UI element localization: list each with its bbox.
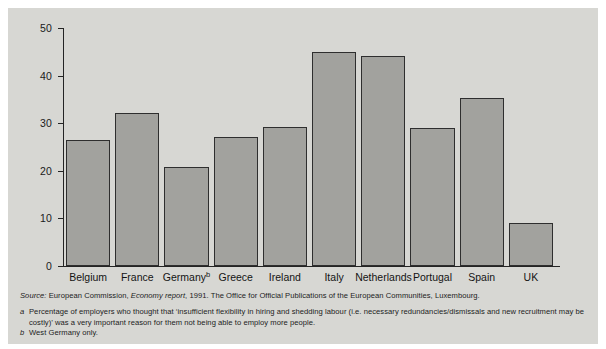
footnote-a: aPercentage of employers who thought tha… <box>20 307 592 328</box>
footnote-b-text: West Germany only. <box>29 328 585 338</box>
source-label: Source: <box>20 291 47 300</box>
bar-portugal <box>410 128 454 266</box>
bar-netherlands <box>361 56 405 266</box>
footnote-a-text: Percentage of employers who thought that… <box>29 307 585 328</box>
y-tick-label-30: 30 <box>26 117 52 129</box>
x-tick-label-germany: Germanyb <box>158 271 214 283</box>
y-tick-label-40: 40 <box>26 70 52 82</box>
bar-uk <box>509 223 553 266</box>
figure-notes: Source: European Commission, Economy rep… <box>20 291 592 339</box>
footnote-a-marker: a <box>20 307 29 317</box>
bar-italy <box>312 52 356 266</box>
x-tick-label-italy: Italy <box>306 271 362 283</box>
x-tick-label-france: France <box>109 271 165 283</box>
x-tick-label-portugal: Portugal <box>404 271 460 283</box>
x-tick-label-belgium: Belgium <box>60 271 116 283</box>
x-tick-label-uk: UK <box>503 271 559 283</box>
y-tick-label-10: 10 <box>26 212 52 224</box>
source-text-1: European Commission, <box>47 291 131 300</box>
bar-greece <box>214 137 258 266</box>
y-tick-mark-0 <box>58 266 64 267</box>
y-tick-label-50: 50 <box>26 22 52 34</box>
x-axis-line <box>63 266 560 267</box>
x-tick-label-spain: Spain <box>454 271 510 283</box>
source-note: Source: European Commission, Economy rep… <box>20 291 592 301</box>
bar-spain <box>460 98 504 266</box>
y-tick-mark-10 <box>58 218 64 219</box>
bar-belgium <box>66 140 110 266</box>
y-axis-line <box>63 28 64 267</box>
bar-france <box>115 113 159 266</box>
y-tick-mark-30 <box>58 123 64 124</box>
bar-chart: 50403020100 BelgiumFranceGermanybGreeceI… <box>0 0 606 290</box>
x-tick-label-netherlands: Netherlands <box>355 271 411 283</box>
source-text-2: , 1991. The Office for Official Publicat… <box>185 291 480 300</box>
figure-page: 50403020100 BelgiumFranceGermanybGreeceI… <box>0 0 606 349</box>
y-tick-label-20: 20 <box>26 165 52 177</box>
x-tick-label-ireland: Ireland <box>257 271 313 283</box>
bar-germany <box>164 167 208 266</box>
y-tick-mark-20 <box>58 171 64 172</box>
footnote-b: bWest Germany only. <box>20 328 592 338</box>
source-publication: Economy report <box>131 291 185 300</box>
footnote-b-marker: b <box>20 328 29 338</box>
x-tick-label-greece: Greece <box>208 271 264 283</box>
y-tick-label-0: 0 <box>26 260 52 272</box>
y-tick-mark-40 <box>58 76 64 77</box>
bar-ireland <box>263 127 307 266</box>
y-tick-mark-50 <box>58 28 64 29</box>
